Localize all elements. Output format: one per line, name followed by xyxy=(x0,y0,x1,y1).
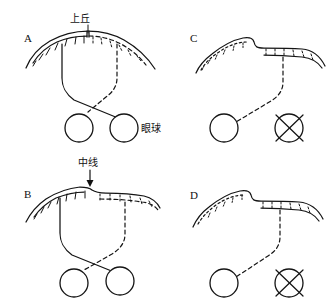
panel-c-right-eye-removed xyxy=(275,114,303,142)
panel-a-letter: A xyxy=(24,32,32,44)
panel-b-midline-arrow xyxy=(87,170,94,187)
panel-d-left-dotted-ticks xyxy=(208,195,242,218)
panel-d-right-eye-removed xyxy=(275,269,303,297)
panel-c-left-eye xyxy=(210,114,238,142)
panel-d-tectum-inner-right xyxy=(261,208,319,221)
panel-b-midline-label: 中线 xyxy=(78,156,98,168)
panel-d-projection-dashed xyxy=(236,210,280,277)
panel-d: D xyxy=(190,189,323,297)
panel-a-tectum-outer-contour xyxy=(26,31,155,69)
panel-c-tectum-inner-right xyxy=(264,55,322,68)
panel-c-letter: C xyxy=(190,32,197,44)
panel-c-projection-dashed xyxy=(236,57,283,122)
panel-b-right-eye xyxy=(106,267,134,295)
panel-a-projection-solid xyxy=(62,44,118,118)
panel-a-tectum-inner-left xyxy=(33,36,87,63)
panel-a-projection-dashed xyxy=(88,44,117,112)
panel-a-left-eye xyxy=(65,114,93,142)
panel-d-left-eye xyxy=(210,269,238,297)
panel-b-projection-dashed xyxy=(84,202,125,270)
panel-b: B 中线 xyxy=(24,156,160,297)
panel-b-letter: B xyxy=(24,188,31,200)
panel-c-tectum-outer-contour xyxy=(196,38,325,73)
figure-root: A 上丘 xyxy=(0,0,335,308)
panel-a-superior-colliculus-label: 上丘 xyxy=(70,13,90,24)
panel-a-eyeball-label: 眼球 xyxy=(141,122,161,134)
panel-d-tectum-outer-contour xyxy=(193,191,323,227)
panel-a-right-eye xyxy=(110,114,138,142)
panel-b-left-eye xyxy=(60,269,88,297)
panel-a-left-hatching xyxy=(33,36,84,66)
panel-b-projection-solid xyxy=(60,198,114,272)
panel-a: A 上丘 xyxy=(24,13,161,142)
panel-d-letter: D xyxy=(190,189,198,201)
panel-c: C xyxy=(190,32,325,142)
diagram-canvas: A 上丘 xyxy=(0,0,335,308)
panel-b-tectum-inner-left xyxy=(34,192,84,217)
